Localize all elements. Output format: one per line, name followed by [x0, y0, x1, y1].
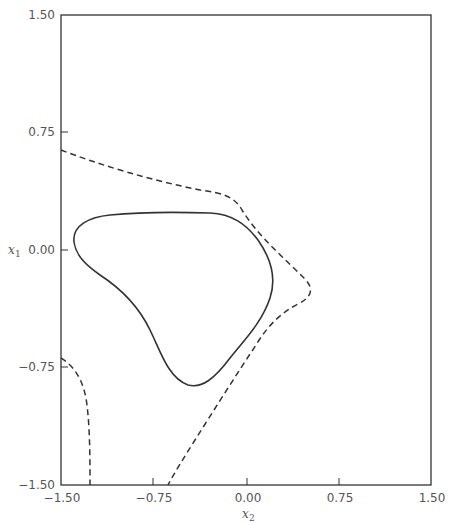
x-tick-label: 0.00: [235, 491, 262, 505]
plot-frame: [61, 15, 431, 485]
y-tick-label: 0.75: [28, 125, 55, 139]
closed-contour-solid: [74, 212, 273, 385]
svg-text:1: 1: [15, 249, 21, 259]
x-tick-label: −1.50: [44, 491, 81, 505]
y-axis-label: x 1: [8, 243, 21, 259]
x-axis-ticks: [153, 478, 339, 485]
svg-text:x: x: [242, 507, 249, 521]
lower-left-dashed-boundary: [61, 358, 90, 485]
svg-text:2: 2: [249, 513, 255, 523]
y-tick-label: 1.50: [28, 8, 55, 22]
x-axis-label: x 2: [242, 507, 255, 523]
x-tick-label: 1.50: [419, 491, 446, 505]
contour-chart: 1.50 0.75 0.00 −0.75 −1.50 −1.50 −0.75 0…: [0, 0, 456, 525]
svg-text:x: x: [8, 243, 15, 257]
y-tick-label: −1.50: [18, 478, 55, 492]
upper-dashed-boundary: [61, 150, 311, 485]
y-tick-label: 0.00: [28, 243, 55, 257]
y-axis-ticks: [61, 132, 68, 367]
x-tick-label: 0.75: [327, 491, 354, 505]
x-tick-label: −0.75: [136, 491, 173, 505]
y-tick-label: −0.75: [18, 360, 55, 374]
